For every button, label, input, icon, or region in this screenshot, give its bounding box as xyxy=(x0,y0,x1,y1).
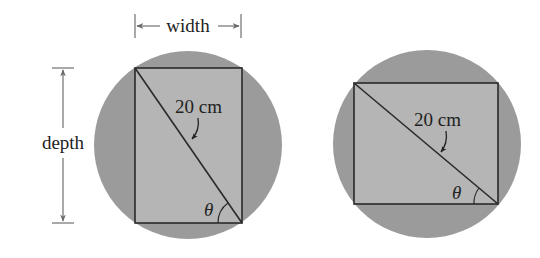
log-beam-diagram: width depth 20 cm θ 20 cm θ xyxy=(0,0,540,258)
depth-dimension: depth xyxy=(42,68,85,223)
angle-label-left: θ xyxy=(204,199,213,220)
diagonal-label-right: 20 cm xyxy=(414,109,461,130)
angle-label-right: θ xyxy=(452,182,461,203)
width-label: width xyxy=(166,15,210,36)
width-dimension: width xyxy=(135,14,241,38)
right-panel: 20 cm θ xyxy=(333,50,521,238)
depth-label: depth xyxy=(42,132,85,153)
left-panel: width depth 20 cm θ xyxy=(42,14,282,239)
diagonal-label-left: 20 cm xyxy=(175,96,222,117)
